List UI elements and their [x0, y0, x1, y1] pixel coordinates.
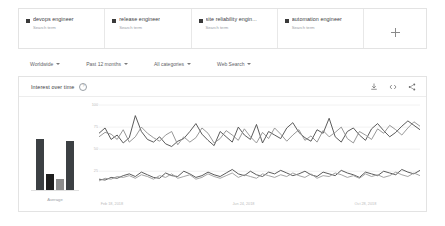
search-term-card-3[interactable]: automation engineer Search term: [278, 9, 364, 48]
filter-time-range-label: Past 12 months: [86, 61, 121, 67]
chart-actions: [370, 83, 416, 91]
x-axis-tick: Jun 24, 2018: [232, 202, 254, 206]
chart-title: Interest over time: [31, 84, 74, 90]
y-axis-tick: 25: [94, 169, 98, 173]
line-chart-panel: 100755025 Feb 18, 2018Jun 24, 2018Oct 28…: [85, 97, 420, 212]
filter-search-type-label: Web Search: [217, 61, 244, 67]
search-term-subtitle: Search term: [206, 25, 271, 31]
x-axis: Feb 18, 2018Jun 24, 2018Oct 28, 2018: [99, 202, 420, 210]
search-term-head: automation engineer: [285, 16, 357, 23]
embed-icon[interactable]: [389, 83, 397, 91]
series-line: [99, 172, 420, 181]
average-bar: [36, 139, 44, 191]
search-term-label: devops engineer: [33, 16, 74, 23]
interest-over-time-card: Interest over time: [18, 76, 427, 212]
series-color-dot-icon: [285, 19, 289, 23]
chevron-down-icon: [247, 63, 251, 65]
chart-header: Interest over time: [19, 77, 426, 97]
search-term-card-2[interactable]: site reliability engin... Search term: [192, 9, 278, 48]
search-term-card-0[interactable]: devops engineer Search term: [19, 9, 105, 48]
filter-location[interactable]: Worldwide: [30, 61, 60, 67]
google-trends-page: devops engineer Search term release engi…: [0, 0, 445, 226]
average-baseline: [31, 190, 79, 191]
y-axis: 100755025: [85, 97, 99, 212]
y-axis-tick: 100: [92, 103, 98, 107]
y-axis-tick: 50: [94, 147, 98, 151]
series-line: [99, 116, 420, 147]
add-search-term-button[interactable]: [364, 9, 426, 48]
filter-category-label: All categories: [154, 61, 184, 67]
search-term-card-1[interactable]: release engineer Search term: [105, 9, 191, 48]
search-term-head: site reliability engin...: [199, 16, 271, 23]
search-term-label: automation engineer: [292, 16, 342, 23]
x-axis-tick: Oct 28, 2018: [355, 202, 377, 206]
search-term-label: site reliability engin...: [206, 16, 257, 23]
share-icon[interactable]: [408, 83, 416, 91]
y-axis-tick: 75: [94, 125, 98, 129]
average-label: Average: [29, 197, 81, 202]
search-term-head: release engineer: [112, 16, 184, 23]
search-term-subtitle: Search term: [33, 25, 98, 31]
plot-area: Average 100755025 Feb 18, 2018Jun 24, 20…: [19, 97, 426, 212]
series-color-dot-icon: [112, 19, 116, 23]
series-color-dot-icon: [199, 19, 203, 23]
info-icon[interactable]: [79, 83, 87, 91]
series-color-dot-icon: [26, 19, 30, 23]
search-term-head: devops engineer: [26, 16, 98, 23]
average-bar: [66, 141, 74, 191]
chevron-down-icon: [124, 63, 128, 65]
download-icon[interactable]: [370, 83, 378, 91]
filter-search-type[interactable]: Web Search: [217, 61, 251, 67]
filter-location-label: Worldwide: [30, 61, 53, 67]
filter-time-range[interactable]: Past 12 months: [86, 61, 128, 67]
filter-category[interactable]: All categories: [154, 61, 191, 67]
plus-icon: [391, 28, 400, 37]
average-bar: [46, 174, 54, 191]
trends-line-svg: [99, 97, 420, 212]
average-bar: [56, 179, 64, 191]
average-panel: Average: [29, 105, 81, 205]
search-term-label: release engineer: [119, 16, 160, 23]
chevron-down-icon: [56, 63, 60, 65]
search-term-subtitle: Search term: [119, 25, 184, 31]
search-terms-row: devops engineer Search term release engi…: [18, 8, 427, 49]
search-term-subtitle: Search term: [292, 25, 357, 31]
x-axis-tick: Feb 18, 2018: [101, 202, 123, 206]
filter-bar: Worldwide Past 12 months All categories …: [18, 55, 427, 72]
chevron-down-icon: [187, 63, 191, 65]
average-bars: [31, 119, 79, 191]
